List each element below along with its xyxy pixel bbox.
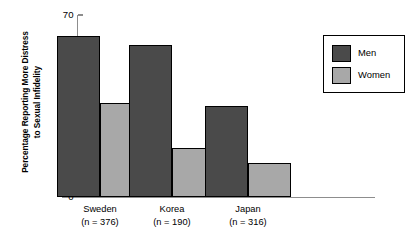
- x-axis-line: [62, 197, 375, 198]
- y-axis-title: Percentage Reporting More Distress to Se…: [20, 2, 43, 202]
- legend-item-women: Women: [332, 64, 404, 86]
- plot-area: 706050403020100 Sweden (n = 376)Korea (n…: [78, 15, 375, 197]
- bar-group: [129, 15, 215, 197]
- bar-japan-women: [248, 163, 291, 197]
- legend-swatch-women: [332, 67, 351, 84]
- bar-group: [205, 15, 291, 197]
- legend-swatch-men: [332, 45, 351, 62]
- legend-item-men: Men: [332, 42, 404, 64]
- bar-sweden-men: [57, 36, 100, 197]
- chart-legend: Men Women: [323, 35, 405, 93]
- bar-japan-men: [205, 106, 248, 197]
- bar-korea-men: [129, 45, 172, 197]
- x-axis-label-japan: Japan (n = 316): [203, 203, 293, 229]
- legend-label-men: Men: [351, 48, 376, 58]
- legend-label-women: Women: [351, 70, 390, 80]
